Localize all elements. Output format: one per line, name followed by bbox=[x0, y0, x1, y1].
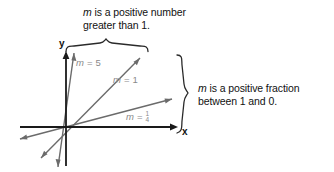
slope-variable: m bbox=[113, 74, 121, 85]
axis-group bbox=[20, 51, 178, 166]
slope-variable: m bbox=[76, 57, 84, 68]
top-brace bbox=[66, 39, 148, 52]
ray-slope-1 bbox=[41, 58, 140, 158]
annotation-line-2: greater than 1. bbox=[83, 19, 150, 31]
annotation-line-1-rest: is a positive number bbox=[92, 6, 186, 18]
positive-fraction-annotation: m is a positive fraction between 1 and 0… bbox=[198, 82, 299, 107]
x-axis bbox=[20, 124, 178, 131]
variable-m: m bbox=[198, 82, 207, 94]
fraction-denominator: 4 bbox=[146, 117, 150, 123]
annotation-line-1: m is a positive fraction bbox=[198, 82, 299, 94]
annotation-line-1: m is a positive number bbox=[83, 6, 186, 18]
slope-equals: = bbox=[137, 111, 143, 122]
slope-value: 1 bbox=[133, 74, 138, 85]
variable-m: m bbox=[83, 6, 92, 18]
slope-value: 5 bbox=[96, 57, 101, 68]
slope-label-one-quarter: m = 1 4 bbox=[126, 111, 149, 123]
positive-number-annotation: m is a positive number greater than 1. bbox=[83, 6, 186, 31]
slope-equals: = bbox=[87, 57, 93, 68]
y-axis-label: y bbox=[59, 38, 65, 49]
slope-equals: = bbox=[124, 74, 130, 85]
x-axis-label: x bbox=[182, 126, 188, 137]
annotation-line-1-rest: is a positive fraction bbox=[207, 82, 300, 94]
y-axis bbox=[63, 51, 70, 166]
right-brace bbox=[177, 55, 188, 133]
slope-label-1: m = 1 bbox=[113, 74, 138, 85]
slope-variable: m bbox=[126, 111, 134, 122]
fraction-one-quarter: 1 4 bbox=[146, 111, 150, 123]
slope-label-5: m = 5 bbox=[76, 57, 101, 68]
annotation-line-2: between 1 and 0. bbox=[198, 95, 277, 107]
